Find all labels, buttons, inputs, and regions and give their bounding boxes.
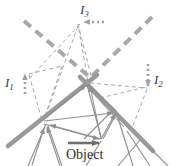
image-label-I2: I2 (154, 73, 163, 86)
image-label-I1-sub: 1 (9, 82, 14, 92)
construction-I1-top (29, 66, 62, 74)
ray-incoming-left-a (32, 128, 44, 165)
right-mirror-extension-dash (86, 17, 152, 82)
construction-I1-down (29, 75, 42, 120)
ray-outgoing-left-b (48, 126, 62, 166)
thick-dashed-extensions (24, 17, 152, 82)
ray-object-to-right-node (101, 114, 115, 139)
construction-I2-cross (100, 87, 146, 98)
ray-incoming-left-b (47, 127, 60, 166)
ray-apex-to-lower-right (84, 83, 124, 127)
image-label-I3: I3 (80, 3, 89, 16)
construction-I2-down (131, 89, 147, 131)
object-label: Object (66, 148, 103, 162)
image-label-I2-sub: 2 (158, 79, 163, 89)
image-label-I1: I1 (5, 76, 14, 89)
optics-diagram-canvas (0, 0, 171, 166)
image-label-I3-sub: 3 (84, 9, 89, 19)
ray-outgoing-bottom-right-c (118, 140, 140, 166)
mirrors (8, 75, 153, 151)
ray-diagram-figure: I1 I2 I3 Object (0, 0, 171, 166)
ray-outgoing-right-edge (150, 148, 168, 166)
construction-apex-to-I2 (90, 83, 147, 88)
